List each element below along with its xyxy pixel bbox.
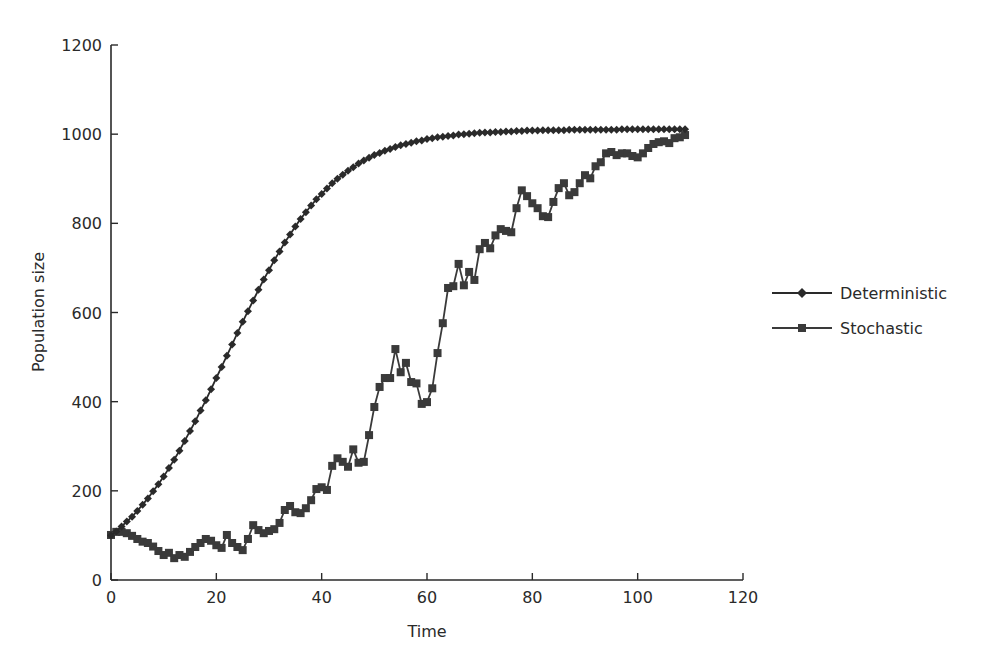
square-marker-icon bbox=[218, 544, 226, 552]
square-marker-icon bbox=[402, 359, 410, 367]
legend-label-stochastic: Stochastic bbox=[840, 319, 923, 338]
legend-label-deterministic: Deterministic bbox=[840, 284, 947, 303]
square-marker-icon bbox=[428, 384, 436, 392]
x-tick-label: 120 bbox=[728, 588, 759, 607]
diamond-marker-icon bbox=[175, 447, 183, 455]
square-marker-icon bbox=[507, 228, 515, 236]
square-marker-icon bbox=[586, 174, 594, 182]
square-marker-icon bbox=[560, 179, 568, 187]
y-tick-label: 1200 bbox=[61, 36, 102, 55]
y-tick-label: 0 bbox=[92, 571, 102, 590]
diamond-marker-icon bbox=[265, 266, 273, 274]
series-stochastic bbox=[107, 131, 689, 562]
diamond-marker-icon bbox=[276, 247, 284, 255]
square-marker-icon bbox=[391, 345, 399, 353]
square-marker-icon bbox=[570, 188, 578, 196]
legend: Deterministic Stochastic bbox=[772, 284, 947, 338]
square-marker-icon bbox=[386, 374, 394, 382]
x-tick-label: 20 bbox=[206, 588, 226, 607]
plot-area bbox=[107, 125, 689, 562]
x-axis: 020406080100120 bbox=[106, 573, 758, 607]
diamond-marker-icon bbox=[254, 286, 262, 294]
square-marker-icon bbox=[397, 368, 405, 376]
square-marker-icon bbox=[597, 158, 605, 166]
diamond-marker-icon bbox=[249, 296, 257, 304]
square-marker-icon bbox=[544, 213, 552, 221]
diamond-marker-icon bbox=[197, 407, 205, 415]
x-tick-label: 40 bbox=[311, 588, 331, 607]
square-marker-icon bbox=[328, 462, 336, 470]
y-axis-title: Population size bbox=[29, 252, 48, 372]
square-marker-icon bbox=[523, 192, 531, 200]
y-tick-label: 1000 bbox=[61, 125, 102, 144]
x-tick-label: 0 bbox=[106, 588, 116, 607]
y-tick-label: 200 bbox=[71, 482, 102, 501]
square-marker-icon bbox=[323, 486, 331, 494]
diamond-marker-icon bbox=[191, 417, 199, 425]
square-marker-icon bbox=[465, 268, 473, 276]
square-marker-icon bbox=[486, 244, 494, 252]
diamond-marker-icon bbox=[270, 256, 278, 264]
square-marker-icon bbox=[360, 458, 368, 466]
square-marker-icon bbox=[534, 204, 542, 212]
x-tick-label: 80 bbox=[522, 588, 542, 607]
diamond-marker-icon bbox=[202, 396, 210, 404]
square-marker-icon bbox=[513, 204, 521, 212]
legend-item-stochastic: Stochastic bbox=[772, 319, 923, 338]
square-marker-icon bbox=[798, 324, 806, 332]
legend-item-deterministic: Deterministic bbox=[772, 284, 947, 303]
diamond-marker-icon bbox=[228, 341, 236, 349]
square-marker-icon bbox=[549, 198, 557, 206]
diamond-marker-icon bbox=[260, 276, 268, 284]
diamond-marker-icon bbox=[239, 318, 247, 326]
diamond-marker-icon bbox=[181, 437, 189, 445]
square-marker-icon bbox=[370, 403, 378, 411]
diamond-marker-icon bbox=[212, 374, 220, 382]
diamond-marker-icon bbox=[244, 307, 252, 315]
series-deterministic bbox=[107, 125, 689, 539]
square-marker-icon bbox=[376, 383, 384, 391]
square-marker-icon bbox=[449, 282, 457, 290]
square-marker-icon bbox=[365, 431, 373, 439]
square-marker-icon bbox=[307, 496, 315, 504]
x-tick-label: 100 bbox=[622, 588, 653, 607]
square-marker-icon bbox=[412, 379, 420, 387]
y-tick-label: 400 bbox=[71, 393, 102, 412]
x-axis-title: Time bbox=[406, 622, 446, 641]
square-marker-icon bbox=[576, 179, 584, 187]
y-axis: 020040060080010001200 bbox=[61, 36, 118, 590]
square-marker-icon bbox=[460, 281, 468, 289]
diamond-marker-icon bbox=[165, 464, 173, 472]
square-marker-icon bbox=[344, 463, 352, 471]
square-marker-icon bbox=[423, 398, 431, 406]
diamond-marker-icon bbox=[223, 352, 231, 360]
square-marker-icon bbox=[223, 531, 231, 539]
square-marker-icon bbox=[302, 504, 310, 512]
diamond-marker-icon bbox=[797, 288, 807, 298]
diamond-marker-icon bbox=[233, 329, 241, 337]
square-marker-icon bbox=[349, 445, 357, 453]
diamond-marker-icon bbox=[218, 363, 226, 371]
square-marker-icon bbox=[244, 535, 252, 543]
x-tick-label: 60 bbox=[417, 588, 437, 607]
diamond-marker-icon bbox=[207, 385, 215, 393]
square-marker-icon bbox=[439, 319, 447, 327]
square-marker-icon bbox=[470, 276, 478, 284]
y-tick-label: 600 bbox=[71, 304, 102, 323]
population-chart: 020040060080010001200 020406080100120 Ti… bbox=[0, 0, 992, 662]
diamond-marker-icon bbox=[186, 427, 194, 435]
square-marker-icon bbox=[239, 546, 247, 554]
square-marker-icon bbox=[276, 519, 284, 527]
y-tick-label: 800 bbox=[71, 214, 102, 233]
square-marker-icon bbox=[455, 260, 463, 268]
square-marker-icon bbox=[434, 349, 442, 357]
